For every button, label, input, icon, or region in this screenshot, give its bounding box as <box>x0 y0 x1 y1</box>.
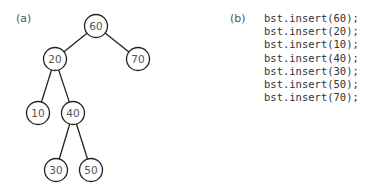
node-value: 50 <box>84 164 97 176</box>
tree-node: 10 <box>27 102 50 125</box>
code-listing: bst.insert(60); bst.insert(20); bst.inse… <box>264 12 359 104</box>
tree-edge <box>64 33 87 52</box>
node-value: 70 <box>131 53 144 65</box>
tree-edge <box>59 70 70 102</box>
node-value: 60 <box>89 20 102 32</box>
node-value: 20 <box>48 53 61 65</box>
node-value: 40 <box>66 107 79 119</box>
node-value: 30 <box>49 164 62 176</box>
tree-node: 50 <box>80 159 103 182</box>
tree-edge <box>41 70 51 102</box>
code-line: bst.insert(20); <box>264 25 359 38</box>
tree-edge <box>105 33 129 52</box>
code-line: bst.insert(10); <box>264 38 359 51</box>
tree-node: 20 <box>44 48 67 71</box>
code-line: bst.insert(40); <box>264 52 359 65</box>
code-line: bst.insert(70); <box>264 91 359 104</box>
tree-node: 40 <box>62 102 85 125</box>
tree-edge <box>59 124 69 159</box>
tree-node: 60 <box>85 15 108 38</box>
tree-node: 30 <box>45 159 68 182</box>
tree-node: 70 <box>127 48 150 71</box>
code-line: bst.insert(60); <box>264 12 359 25</box>
code-line: bst.insert(30); <box>264 65 359 78</box>
tree-edge <box>76 124 87 159</box>
node-value: 10 <box>31 107 44 119</box>
code-line: bst.insert(50); <box>264 78 359 91</box>
